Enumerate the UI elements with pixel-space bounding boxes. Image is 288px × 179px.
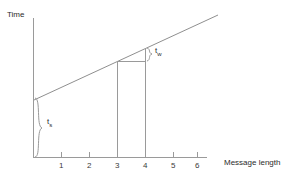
y-axis-title: Time [7,11,24,19]
word-time-label: tw [155,47,162,57]
figure-container: Time Message length 1 2 3 4 5 6 ts tw [0,0,288,179]
x-tick-label-2: 2 [87,162,91,170]
x-tick-label-5: 5 [171,162,175,170]
word-time-subscript: w [157,51,161,57]
x-axis-title: Message length [224,159,280,167]
startup-time-label: ts [47,118,52,128]
brace-word-time [147,48,152,61]
brace-startup-time [35,98,42,157]
x-tick-label-1: 1 [59,162,63,170]
startup-time-subscript: s [49,122,52,128]
x-tick-label-3: 3 [115,162,119,170]
line-chart-svg [0,0,288,179]
x-tick-label-6: 6 [195,162,199,170]
x-axis-ticks [62,152,198,158]
transmission-time-line [34,15,218,100]
x-tick-label-4: 4 [143,162,147,170]
